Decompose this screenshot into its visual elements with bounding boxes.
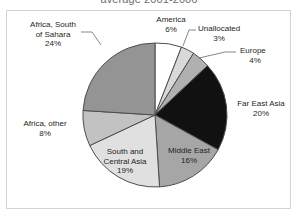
pie-label-south-and-central-asia-name-line2: Central Asia (92, 157, 158, 167)
pie-label-south-and-central-asia-value: 19% (92, 166, 158, 176)
leader-line-africa-south-of-sahara (81, 32, 101, 45)
pie-label-america-value: 6% (142, 25, 200, 35)
pie-label-unallocated: Unallocated 3% (198, 24, 258, 43)
pie-label-america: America 6% (142, 15, 200, 34)
pie-label-far-east-asia: Far East Asia 20% (230, 99, 292, 118)
pie-label-america-name: America (142, 15, 200, 25)
pie-label-africa-south-of-sahara: Africa, South of Sahara 24% (22, 20, 84, 49)
pie-label-europe-value: 4% (240, 56, 290, 66)
pie-label-africa-south-of-sahara-name-line1: Africa, South (22, 20, 84, 30)
pie-label-unallocated-name: Unallocated (198, 24, 258, 34)
pie-label-south-and-central-asia-name-line1: South and (92, 147, 158, 157)
pie-label-far-east-asia-value: 20% (230, 109, 292, 119)
pie-label-unallocated-value: 3% (198, 34, 258, 44)
pie-label-europe-name: Europe (240, 46, 290, 56)
pie-slice-africa-south-of-sahara[interactable] (83, 43, 155, 115)
pie-label-far-east-asia-name: Far East Asia (230, 99, 292, 109)
pie-label-africa-other: Africa, other 8% (12, 119, 78, 138)
pie-label-middle-east-name: Middle East (158, 146, 220, 156)
pie-label-africa-south-of-sahara-value: 24% (22, 39, 84, 49)
leader-line-europe (199, 52, 236, 58)
pie-label-middle-east-value: 16% (158, 156, 220, 166)
chart-screenshot: average 2001-2006 America 6% Unallocated… (0, 0, 298, 216)
pie-label-africa-south-of-sahara-name-line2: of Sahara (22, 30, 84, 40)
pie-label-africa-other-name: Africa, other (12, 119, 78, 129)
pie-label-europe: Europe 4% (240, 46, 290, 65)
pie-label-africa-other-value: 8% (12, 129, 78, 139)
pie-label-south-and-central-asia: South and Central Asia 19% (92, 147, 158, 176)
pie-label-middle-east: Middle East 16% (158, 146, 220, 165)
